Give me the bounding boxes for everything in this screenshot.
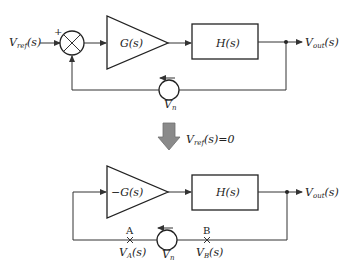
transition: Vref(s)=0 [158,123,235,150]
output-label: Vout(s) [305,36,339,50]
top-diagram: Vref(s) + G(s) H(s) Vout(s) Vn [9,16,339,112]
bottom-diagram: −G(s) H(s) Vout(s) Vn A VA(s) B VB(s) [73,166,339,262]
down-arrow-icon [158,123,180,150]
point-a-value: VA(s) [119,246,146,260]
noise-source-icon [157,230,177,250]
source-label: Vn [162,248,175,262]
amp-label: −G(s) [111,186,143,199]
plus-sign: + [54,26,62,37]
summing-junction-icon [60,31,84,55]
source-label: Vn [164,98,177,112]
point-b-label: B [203,225,210,236]
input-label: Vref(s) [9,36,41,50]
point-a-label: A [125,225,134,236]
output-label: Vout(s) [305,186,339,200]
block-label: H(s) [215,186,240,199]
block-label: H(s) [215,37,240,50]
block-diagram: Vref(s) + G(s) H(s) Vout(s) Vn Vref(s)=0 [0,0,343,270]
point-b-value: VB(s) [196,246,223,260]
amp-label: G(s) [120,37,143,50]
condition-label: Vref(s)=0 [186,133,235,147]
loop-input-wire [73,192,106,240]
noise-source-icon [159,80,179,100]
